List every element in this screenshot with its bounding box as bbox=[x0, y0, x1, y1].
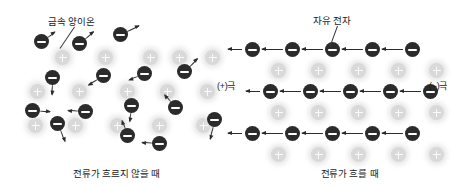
free-electron bbox=[177, 64, 192, 79]
free-electron bbox=[285, 42, 300, 57]
free-electron bbox=[303, 84, 318, 99]
free-electron bbox=[120, 128, 135, 143]
metal-cation bbox=[55, 50, 70, 65]
free-electron bbox=[245, 126, 260, 141]
electron-drift-arrow bbox=[280, 91, 302, 92]
free-electron bbox=[152, 136, 167, 151]
metal-cation bbox=[391, 147, 406, 162]
callout-label-cation: 금속 양이온 bbox=[48, 14, 94, 28]
electron-drift-arrow bbox=[246, 91, 260, 92]
caption-no-current: 전류가 흐르지 않을 때 bbox=[0, 166, 233, 180]
pole-label-negative: (−)극 bbox=[429, 79, 447, 92]
caption-with-current: 전류가 흐를 때 bbox=[233, 166, 466, 180]
electron-drift-arrow bbox=[262, 49, 284, 50]
electron-drift-arrow bbox=[228, 49, 242, 50]
metal-cation bbox=[120, 84, 135, 99]
metal-cation bbox=[143, 50, 158, 65]
panel-with-current: 자유 전자 (+)극 (−)극 전류가 흐를 때 bbox=[233, 0, 466, 186]
electron-drift-arrow bbox=[302, 133, 324, 134]
free-electron bbox=[405, 42, 420, 57]
metal-cation bbox=[72, 84, 87, 99]
metal-cation bbox=[391, 63, 406, 78]
electron-drift-arrow bbox=[382, 49, 404, 50]
callout-label-free-electron: 자유 전자 bbox=[313, 13, 351, 27]
free-electron bbox=[343, 84, 358, 99]
metal-cation bbox=[311, 105, 326, 120]
free-electron bbox=[45, 70, 60, 85]
electron-drift-arrow bbox=[382, 133, 404, 134]
electron-drift-arrow bbox=[302, 49, 324, 50]
free-electron bbox=[72, 36, 87, 51]
free-electron bbox=[34, 34, 49, 49]
electron-drift-arrow bbox=[400, 91, 422, 92]
electron-drift-arrow bbox=[342, 49, 364, 50]
free-electron bbox=[124, 98, 139, 113]
metal-cation bbox=[271, 147, 286, 162]
free-electron bbox=[113, 27, 128, 42]
metal-cation bbox=[68, 118, 83, 133]
electron-drift-arrow bbox=[342, 133, 364, 134]
free-electron bbox=[405, 126, 420, 141]
metal-cation bbox=[311, 63, 326, 78]
metal-cation bbox=[271, 63, 286, 78]
electron-drift-arrow bbox=[262, 133, 284, 134]
free-electron bbox=[245, 42, 260, 57]
free-electron bbox=[50, 116, 65, 131]
panel-no-current: 금속 양이온 전류가 흐르지 않을 때 bbox=[0, 0, 233, 186]
free-electron bbox=[365, 42, 380, 57]
free-electron bbox=[96, 68, 111, 83]
metal-cation bbox=[351, 63, 366, 78]
metal-cation bbox=[205, 50, 220, 65]
electric-current-diagram: 금속 양이온 전류가 흐르지 않을 때 자유 전자 (+)극 (−)극 전류가 … bbox=[0, 0, 466, 186]
free-electron bbox=[383, 84, 398, 99]
free-electron bbox=[285, 126, 300, 141]
free-electron bbox=[78, 104, 93, 119]
electron-drift-arrow bbox=[320, 91, 342, 92]
electron-drift-arrow bbox=[228, 133, 242, 134]
metal-cation bbox=[391, 105, 406, 120]
metal-cation bbox=[271, 105, 286, 120]
metal-cation bbox=[200, 84, 215, 99]
free-electron bbox=[365, 126, 380, 141]
metal-cation bbox=[152, 118, 167, 133]
metal-cation bbox=[28, 118, 43, 133]
free-electron bbox=[168, 100, 183, 115]
metal-cation bbox=[429, 105, 444, 120]
free-electron bbox=[263, 84, 278, 99]
metal-cation bbox=[429, 63, 444, 78]
pole-label-positive: (+)극 bbox=[217, 79, 235, 92]
metal-cation bbox=[30, 84, 45, 99]
metal-cation bbox=[351, 105, 366, 120]
metal-cation bbox=[351, 147, 366, 162]
free-electron bbox=[25, 103, 40, 118]
metal-cation bbox=[311, 147, 326, 162]
free-electron bbox=[207, 112, 222, 127]
electron-drift-arrow bbox=[360, 91, 382, 92]
free-electron bbox=[325, 42, 340, 57]
metal-cation bbox=[429, 147, 444, 162]
metal-cation bbox=[98, 50, 113, 65]
metal-cation bbox=[172, 50, 187, 65]
free-electron bbox=[325, 126, 340, 141]
free-electron bbox=[137, 66, 152, 81]
